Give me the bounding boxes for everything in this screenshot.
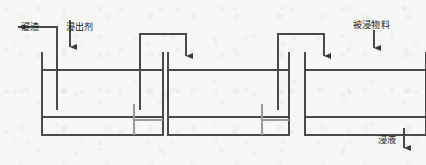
tank-3 [305, 52, 426, 135]
label-leaching-agent: 浸出剂 [66, 22, 94, 33]
tank-2 [168, 52, 289, 135]
figure-canvas: 浸渣 浸出剂 被浸物料 浸液 [0, 0, 426, 165]
tank-1 [42, 52, 163, 135]
label-leachate: 浸液 [378, 135, 396, 146]
pipe-tank1-underflow [134, 104, 163, 135]
pipe-tank2-underflow [262, 104, 289, 135]
flow-tank3-overflow [278, 34, 324, 110]
flow-leach-residue [18, 27, 57, 110]
label-leach-residue: 浸渣 [21, 22, 39, 33]
label-material-to-be-leached: 被浸物料 [353, 20, 390, 31]
